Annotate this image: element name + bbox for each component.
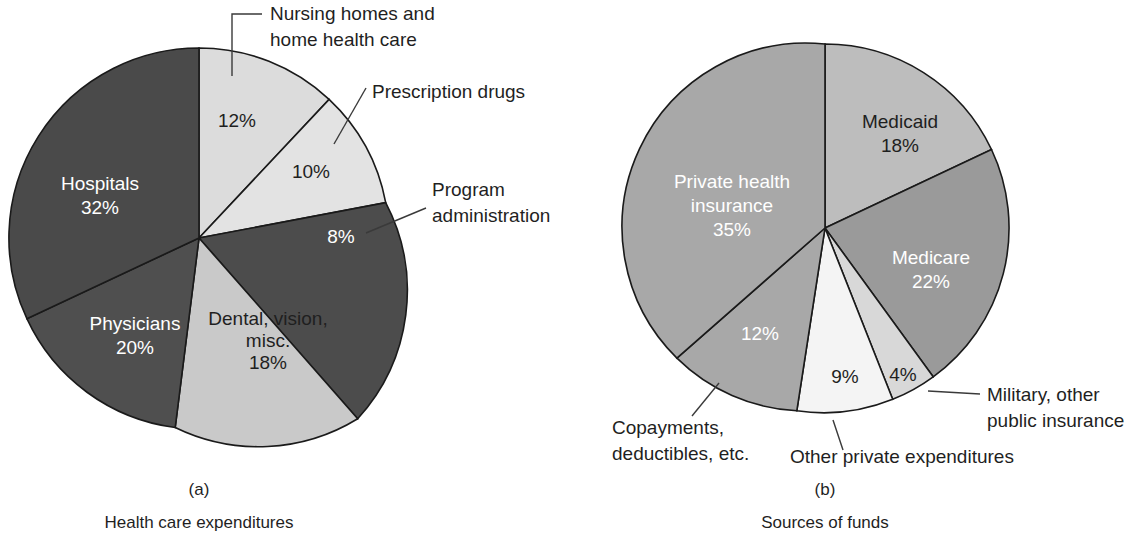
slice-label-dental-value: 18%: [249, 352, 287, 373]
slice-value-nursing-homes: 12%: [218, 110, 256, 131]
slice-label-medicaid-name: Medicaid: [862, 111, 938, 132]
panel-a-letter: (a): [189, 480, 210, 499]
panel-b-caption: Sources of funds: [761, 513, 889, 532]
slice-value-program-administration: 8%: [327, 226, 355, 247]
pie-chart-health-care-expenditures: Hospitals 32% Physicians 20% Dental, vis…: [9, 3, 550, 532]
slice-label-private-health-insurance-line2: insurance: [691, 195, 773, 216]
callout-program-administration-line2: administration: [432, 205, 550, 226]
slice-label-hospitals-name: Hospitals: [61, 173, 139, 194]
pie-chart-sources-of-funds: Medicaid 18% Medicare 22% Private health…: [612, 43, 1124, 532]
slice-label-dental-line1: Dental, vision,: [208, 308, 327, 329]
slice-label-dental-line2: misc.: [246, 330, 290, 351]
callout-nursing-homes-line2: home health care: [270, 29, 417, 50]
slice-label-medicaid-value: 18%: [881, 135, 919, 156]
slice-label-physicians-name: Physicians: [90, 313, 181, 334]
callout-copayments-line2: deductibles, etc.: [612, 443, 749, 464]
slice-value-military: 4%: [889, 364, 917, 385]
slice-value-prescription-drugs: 10%: [292, 161, 330, 182]
slice-label-private-health-insurance-line1: Private health: [674, 171, 790, 192]
callout-nursing-homes-line1: Nursing homes and: [270, 3, 435, 24]
callout-program-administration-line1: Program: [432, 179, 505, 200]
callout-prescription-drugs-line1: Prescription drugs: [372, 81, 525, 102]
callout-military-line2: public insurance: [987, 410, 1124, 431]
slice-label-hospitals-value: 32%: [81, 197, 119, 218]
slice-label-medicare-value: 22%: [912, 271, 950, 292]
callout-other-private-expenditures-line1: Other private expenditures: [790, 446, 1014, 467]
slice-label-physicians-value: 20%: [116, 337, 154, 358]
slice-label-private-health-insurance-value: 35%: [713, 219, 751, 240]
panel-b-letter: (b): [815, 480, 836, 499]
pie-wedges-corrected: [9, 48, 407, 447]
callout-military-line1: Military, other: [987, 384, 1100, 405]
slice-value-other-private-expenditures: 9%: [831, 366, 859, 387]
leader-line-military: [928, 391, 980, 394]
two-pie-figure: Hospitals 32% Physicians 20% Dental, vis…: [0, 0, 1134, 539]
callout-copayments-line1: Copayments,: [612, 417, 724, 438]
figure-canvas: Hospitals 32% Physicians 20% Dental, vis…: [0, 0, 1134, 539]
panel-a-caption: Health care expenditures: [104, 513, 293, 532]
leader-line-copayments: [692, 383, 719, 416]
slice-label-medicare-name: Medicare: [892, 247, 970, 268]
slice-value-copayments: 12%: [741, 323, 779, 344]
